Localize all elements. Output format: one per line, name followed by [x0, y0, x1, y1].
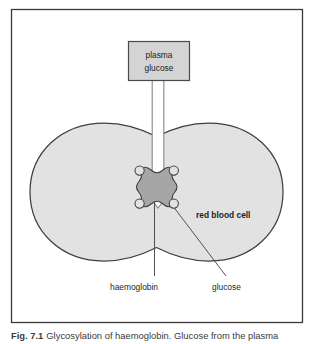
plasma-glucose-line2: glucose	[145, 63, 174, 73]
plasma-glucose-box	[129, 42, 190, 81]
plasma-glucose-line1: plasma	[146, 50, 173, 60]
glucose-label: glucose	[212, 282, 241, 292]
figure-caption: Fig. 7.1Glycosylation of haemoglobin. Gl…	[11, 330, 307, 341]
glucose-circle-top-right	[169, 166, 178, 175]
glucose-circle-top-left	[135, 166, 144, 175]
figure-caption-number: Fig. 7.1	[11, 330, 43, 341]
diagram-canvas: plasma glucose red blood cell haemoglobi…	[0, 0, 313, 344]
figure-container: plasma glucose red blood cell haemoglobi…	[0, 0, 313, 344]
haemoglobin-label: haemoglobin	[110, 282, 158, 292]
glucose-circle-bottom-right	[169, 199, 178, 208]
red-blood-cell-label: red blood cell	[196, 210, 250, 220]
figure-caption-text: Glycosylation of haemoglobin. Glucose fr…	[46, 330, 278, 341]
glucose-circle-bottom-left	[135, 199, 144, 208]
